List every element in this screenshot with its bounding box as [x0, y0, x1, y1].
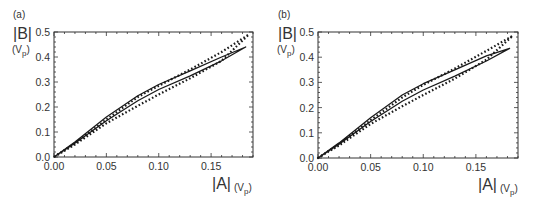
x-tick-label: 0.05	[96, 160, 117, 172]
y-tick-label: 0.2	[35, 101, 50, 113]
x-tick-label: 0.15	[201, 160, 222, 172]
y-tick-label: 0.5	[35, 26, 50, 38]
solid-loop-curve	[318, 48, 510, 158]
y-tick-label: 0.4	[299, 51, 314, 63]
y-tick-label: 0.2	[299, 102, 314, 114]
plot-frame	[318, 32, 518, 158]
y-tick-label: 0.0	[299, 152, 314, 164]
y-tick-label: 0.1	[299, 127, 314, 139]
y-tick-label: 0.5	[299, 26, 314, 38]
panel-a: (a) |B| (Vp) |A| (Vp) 0.000.050.100.150.…	[0, 0, 266, 204]
y-tick-label: 0.3	[299, 76, 314, 88]
y-tick-label: 0.1	[35, 126, 50, 138]
plot-area: 0.000.050.100.150.00.10.20.30.40.5	[266, 0, 532, 204]
x-tick-label: 0.05	[360, 161, 381, 173]
y-tick-label: 0.0	[35, 151, 50, 163]
x-tick-label: 0.10	[149, 160, 170, 172]
x-tick-label: 0.10	[413, 161, 434, 173]
dotted-loop-curve	[54, 35, 249, 158]
x-tick-label: 0.15	[466, 161, 487, 173]
panel-b: (b) |B| (Vp) |A| (Vp) 0.000.050.100.150.…	[266, 0, 532, 204]
plot-area: 0.000.050.100.150.00.10.20.30.40.5	[0, 0, 266, 204]
y-tick-label: 0.4	[35, 51, 50, 63]
y-tick-label: 0.3	[35, 76, 50, 88]
dotted-loop-curve	[318, 36, 513, 158]
